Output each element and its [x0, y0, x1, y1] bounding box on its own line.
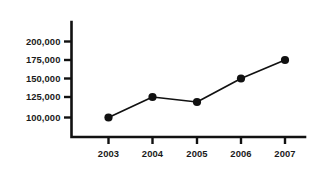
line-chart: 200,000175,000150,000125,000100,000 2003…: [0, 0, 327, 175]
x-tick-label-0: 2003: [98, 148, 119, 159]
series-markers: [104, 56, 289, 122]
chart-canvas: 200,000175,000150,000125,000100,000 2003…: [0, 0, 327, 175]
x-axis-tick-labels: 20032004200520062007: [98, 148, 296, 159]
data-point-2004: [148, 93, 156, 101]
data-point-2006: [237, 74, 245, 82]
y-tick-label-1: 175,000: [26, 54, 61, 65]
y-axis-tick-labels: 200,000175,000150,000125,000100,000: [26, 36, 61, 123]
x-tick-label-4: 2007: [274, 148, 295, 159]
x-tick-label-2: 2005: [186, 148, 207, 159]
x-tick-label-1: 2004: [142, 148, 164, 159]
y-tick-label-0: 200,000: [26, 36, 61, 47]
y-tick-label-4: 100,000: [26, 112, 61, 123]
data-series-group: [104, 56, 289, 122]
data-point-2003: [104, 113, 112, 121]
series-line: [109, 60, 286, 118]
y-tick-label-2: 150,000: [26, 73, 61, 84]
x-tick-label-3: 2006: [230, 148, 251, 159]
data-point-2005: [193, 98, 201, 106]
data-point-2007: [281, 56, 289, 64]
y-tick-label-3: 125,000: [26, 91, 61, 102]
